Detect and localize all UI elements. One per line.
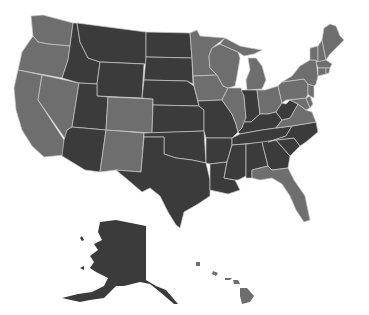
- hawaii-inset: [196, 262, 254, 304]
- alaska-inset: [62, 220, 178, 304]
- state-wy[interactable]: [97, 62, 144, 98]
- state-ak[interactable]: [62, 220, 178, 304]
- us-choropleth-map: [0, 0, 369, 315]
- state-hi-oahu[interactable]: [212, 271, 218, 276]
- state-ri[interactable]: [326, 68, 330, 74]
- state-hi-kauai[interactable]: [196, 262, 200, 266]
- state-co[interactable]: [106, 97, 153, 133]
- state-nm[interactable]: [100, 130, 144, 172]
- state-fl[interactable]: [252, 166, 310, 222]
- state-me[interactable]: [322, 24, 344, 60]
- state-nj[interactable]: [308, 84, 314, 98]
- state-ak-island[interactable]: [80, 236, 84, 241]
- state-nd[interactable]: [146, 32, 192, 58]
- state-vt[interactable]: [310, 46, 318, 62]
- contiguous-states: [14, 15, 344, 228]
- state-ak-island-2[interactable]: [80, 266, 84, 270]
- state-ma[interactable]: [316, 60, 332, 68]
- state-hi-big-island[interactable]: [240, 288, 254, 304]
- state-az[interactable]: [62, 127, 106, 172]
- state-hi-maui[interactable]: [233, 280, 240, 284]
- state-mi[interactable]: [246, 58, 266, 90]
- state-ks[interactable]: [152, 105, 204, 133]
- state-ct[interactable]: [318, 68, 326, 76]
- state-hi-molokai[interactable]: [225, 278, 232, 280]
